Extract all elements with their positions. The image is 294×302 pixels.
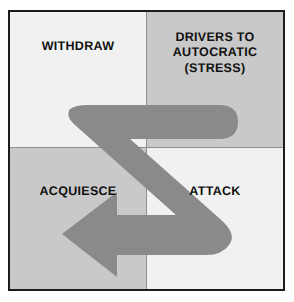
quadrant-acquiesce-label: ACQUIESCE	[39, 184, 116, 199]
quadrant-attack[interactable]: ATTACK	[147, 148, 283, 289]
quadrant-attack-label: ATTACK	[189, 184, 240, 199]
quadrant-drivers-to-autocratic-label: DRIVERS TO AUTOCRATIC (STRESS)	[173, 30, 257, 76]
quadrant-drivers-to-autocratic[interactable]: DRIVERS TO AUTOCRATIC (STRESS)	[147, 12, 283, 148]
quadrant-acquiesce[interactable]: ACQUIESCE	[10, 148, 147, 289]
diagram-root: WITHDRAW DRIVERS TO AUTOCRATIC (STRESS) …	[0, 0, 294, 302]
diagram-frame: WITHDRAW DRIVERS TO AUTOCRATIC (STRESS) …	[8, 10, 285, 291]
quadrant-grid: WITHDRAW DRIVERS TO AUTOCRATIC (STRESS) …	[10, 12, 283, 289]
quadrant-withdraw[interactable]: WITHDRAW	[10, 12, 147, 148]
quadrant-withdraw-label: WITHDRAW	[42, 39, 115, 54]
